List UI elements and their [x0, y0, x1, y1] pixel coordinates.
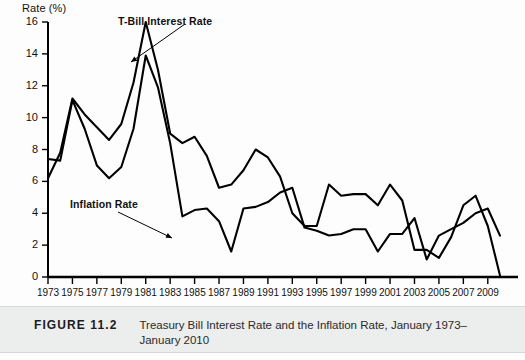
figure-caption-bar: FIGURE 11.2 Treasury Bill Interest Rate …: [0, 306, 525, 353]
tbill-series-annotation: T-Bill Interest Rate: [118, 15, 212, 27]
axes-group: [48, 22, 518, 277]
tbill-annotation-arrow-head: [131, 56, 137, 62]
x-tick-label: 1985: [183, 288, 205, 298]
x-tick-label: 1981: [135, 288, 157, 298]
y-tick-label: 10: [12, 112, 38, 123]
y-tick-label: 8: [12, 144, 38, 155]
x-tick-label: 2001: [379, 288, 401, 298]
x-tick-label: 1983: [159, 288, 181, 298]
x-tick-label: 1975: [61, 288, 83, 298]
x-tick-label: 1989: [232, 288, 254, 298]
y-tick-label: 12: [12, 80, 38, 91]
y-tick-label: 14: [12, 48, 38, 59]
x-tick-label: 1977: [86, 288, 108, 298]
line-chart-svg: [0, 0, 525, 300]
x-tick-label: 1999: [354, 288, 376, 298]
x-tick-label: 2005: [428, 288, 450, 298]
series-line-inflation: [48, 55, 500, 259]
x-tick-label: 1995: [306, 288, 328, 298]
x-tick-label: 2009: [477, 288, 499, 298]
y-tick-label: 6: [12, 175, 38, 186]
figure-number-label: FIGURE 11.2: [0, 318, 139, 332]
inflation-annotation-arrow: [118, 212, 172, 238]
y-tick-label: 16: [12, 16, 38, 27]
x-tick-label: 1987: [208, 288, 230, 298]
data-series-group: [48, 22, 500, 275]
y-tick-label: 4: [12, 207, 38, 218]
x-tick-label: 1991: [257, 288, 279, 298]
tbill-annotation-arrow: [131, 24, 185, 62]
chart-plot-area: Rate (%) 0246810121416 19731975197719791…: [0, 0, 525, 300]
figure-caption-text: Treasury Bill Interest Rate and the Infl…: [139, 318, 469, 348]
axis-ticks-group: [42, 22, 488, 284]
y-tick-label: 0: [12, 271, 38, 282]
y-tick-label: 2: [12, 239, 38, 250]
x-tick-label: 1997: [330, 288, 352, 298]
x-tick-label: 1973: [37, 288, 59, 298]
inflation-series-annotation: Inflation Rate: [70, 198, 138, 210]
x-tick-label: 1993: [281, 288, 303, 298]
x-tick-label: 1979: [110, 288, 132, 298]
series-line-tbill: [48, 22, 500, 275]
x-tick-label: 2007: [452, 288, 474, 298]
x-tick-label: 2003: [403, 288, 425, 298]
figure-container: Rate (%) 0246810121416 19731975197719791…: [0, 0, 525, 360]
